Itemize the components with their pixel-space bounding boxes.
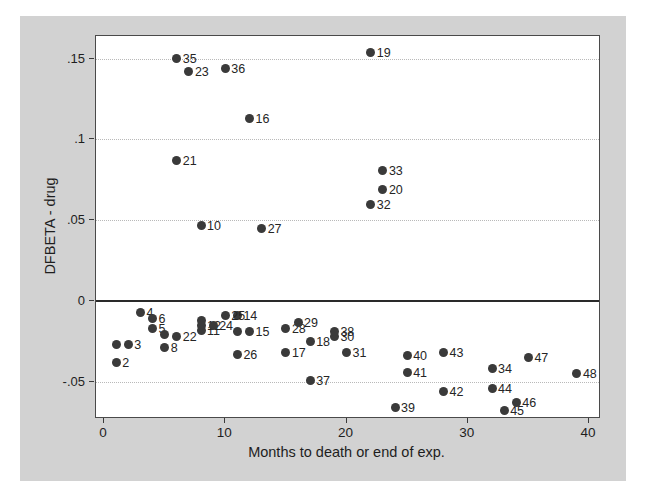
data-point xyxy=(439,387,448,396)
figure-panel: 2345681011121415161718192021222324252627… xyxy=(20,16,626,481)
data-point xyxy=(500,406,509,415)
data-point xyxy=(439,348,448,357)
data-point-label: 44 xyxy=(498,383,512,396)
data-point xyxy=(148,324,157,333)
data-point xyxy=(306,376,315,385)
x-axis-tick xyxy=(224,418,225,423)
y-axis-tick-label: .15 xyxy=(51,52,85,65)
data-point xyxy=(245,327,254,336)
y-axis-tick xyxy=(89,219,94,220)
data-point xyxy=(221,311,230,320)
y-axis-tick-label: .1 xyxy=(51,132,85,145)
y-axis-tick xyxy=(89,381,94,382)
data-point xyxy=(184,67,193,76)
data-point-label: 6 xyxy=(159,313,166,326)
data-point-label: 29 xyxy=(304,317,318,330)
data-point xyxy=(233,350,242,359)
data-point xyxy=(233,327,242,336)
data-point xyxy=(366,48,375,57)
data-point-label: 2 xyxy=(122,357,129,370)
data-point-label: 16 xyxy=(256,113,270,126)
data-point-label: 47 xyxy=(534,352,548,365)
x-axis-tick xyxy=(103,418,104,423)
x-axis-tick-label: 40 xyxy=(571,426,605,440)
data-point-label: 18 xyxy=(316,336,330,349)
data-point xyxy=(148,314,157,323)
y-grid-line xyxy=(96,220,599,221)
data-point xyxy=(112,340,121,349)
data-point-label: 35 xyxy=(183,53,197,66)
x-axis-tick xyxy=(588,418,589,423)
x-axis-tick-label: 0 xyxy=(86,426,120,440)
data-point xyxy=(172,54,181,63)
data-point-label: 14 xyxy=(243,310,257,323)
data-point xyxy=(378,185,387,194)
y-axis-tick-label: .05 xyxy=(51,213,85,226)
data-point-label: 8 xyxy=(171,342,178,355)
data-point-label: 31 xyxy=(353,347,367,360)
data-point-label: 39 xyxy=(401,402,415,415)
data-point-label: 26 xyxy=(243,349,257,362)
data-point-label: 36 xyxy=(231,63,245,76)
x-axis-tick-label: 10 xyxy=(207,426,241,440)
y-grid-line xyxy=(96,139,599,140)
data-point-label: 20 xyxy=(389,184,403,197)
data-point-label: 32 xyxy=(377,199,391,212)
zero-reference-line xyxy=(96,300,599,302)
data-point xyxy=(572,369,581,378)
x-axis-tick xyxy=(467,418,468,423)
data-point-label: 34 xyxy=(498,363,512,376)
data-point xyxy=(366,200,375,209)
data-point xyxy=(197,321,206,330)
data-point xyxy=(257,224,266,233)
x-axis-tick xyxy=(346,418,347,423)
data-point-label: 48 xyxy=(583,368,597,381)
data-point xyxy=(403,368,412,377)
y-axis-tick-label: 0 xyxy=(51,294,85,307)
x-axis-tick-label: 30 xyxy=(450,426,484,440)
data-point xyxy=(209,321,218,330)
data-point xyxy=(160,343,169,352)
data-point xyxy=(172,332,181,341)
y-axis-tick xyxy=(89,138,94,139)
data-point xyxy=(281,348,290,357)
data-point xyxy=(342,348,351,357)
data-point xyxy=(124,340,133,349)
y-grid-line xyxy=(96,382,599,383)
data-point xyxy=(197,221,206,230)
data-point xyxy=(403,351,412,360)
data-point-label: 40 xyxy=(413,350,427,363)
data-point-label: 25 xyxy=(231,310,245,323)
data-point-label: 41 xyxy=(413,367,427,380)
data-point-label: 21 xyxy=(183,155,197,168)
data-point-label: 27 xyxy=(268,223,282,236)
y-axis-tick-label: -.05 xyxy=(51,375,85,388)
y-axis-tick xyxy=(89,58,94,59)
data-point xyxy=(306,337,315,346)
data-point xyxy=(160,330,169,339)
data-point-label: 22 xyxy=(183,331,197,344)
data-point xyxy=(221,64,230,73)
data-point-label: 46 xyxy=(522,397,536,410)
data-point xyxy=(488,364,497,373)
x-axis-title: Months to death or end of exp. xyxy=(95,444,598,460)
data-point xyxy=(378,166,387,175)
y-axis-tick xyxy=(89,300,94,301)
data-point-label: 19 xyxy=(377,47,391,60)
data-point xyxy=(112,358,121,367)
data-point-label: 3 xyxy=(134,339,141,352)
data-point xyxy=(488,384,497,393)
data-point-label: 43 xyxy=(450,347,464,360)
data-point xyxy=(294,318,303,327)
page-background: 2345681011121415161718192021222324252627… xyxy=(0,0,646,497)
data-point-label: 17 xyxy=(292,347,306,360)
data-point-label: 37 xyxy=(316,375,330,388)
data-point-label: 42 xyxy=(450,386,464,399)
data-point-label: 38 xyxy=(340,326,354,339)
data-point-label: 15 xyxy=(256,326,270,339)
data-point-label: 10 xyxy=(207,220,221,233)
x-axis-tick-label: 20 xyxy=(329,426,363,440)
data-point xyxy=(136,308,145,317)
data-point xyxy=(512,398,521,407)
data-point-label: 23 xyxy=(195,66,209,79)
